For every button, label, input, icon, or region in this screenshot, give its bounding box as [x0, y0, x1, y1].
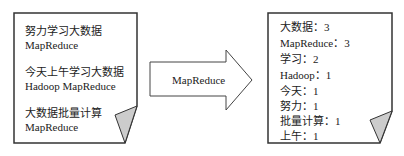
arrow-label: MapReduce	[172, 74, 225, 86]
word-count-line: 今天：1	[280, 86, 319, 97]
input-line: Hadoop MapReduce	[25, 81, 116, 92]
input-line: 今天上午学习大数据	[25, 67, 124, 78]
word-count-line: 努力：1	[280, 101, 319, 112]
mapreduce-arrow: MapReduce	[148, 48, 254, 112]
input-document: 努力学习大数据 MapReduce 今天上午学习大数据 Hadoop MapRe…	[13, 12, 139, 145]
output-document: 大数据：3 MapReduce：3 学习：2 Hadoop：1 今天：1 努力：…	[267, 12, 394, 145]
word-count-line: 批量计算：1	[280, 116, 341, 127]
word-count-line: 学习：2	[280, 54, 319, 65]
input-line: MapReduce	[25, 40, 78, 51]
word-count-line: 上午：1	[280, 131, 319, 142]
input-line: 大数据批量计算	[25, 108, 102, 119]
word-count-line: 大数据：3	[280, 22, 330, 33]
word-count-line: Hadoop：1	[280, 70, 331, 81]
word-count-line: MapReduce：3	[280, 38, 350, 49]
input-line: MapReduce	[25, 122, 78, 133]
input-line: 努力学习大数据	[25, 26, 102, 37]
